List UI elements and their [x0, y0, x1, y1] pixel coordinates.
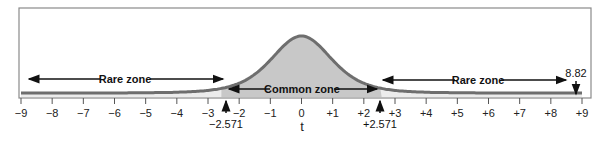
x-tick-label: +1: [326, 107, 339, 119]
x-tick-label: −1: [264, 107, 277, 119]
t-distribution-chart: −9−8−7−6−5−4−3−2−10+1+2+3+4+5+6+7+8+9 Ra…: [0, 0, 604, 141]
x-tick-label: −6: [108, 107, 121, 119]
x-tick-label: 0: [298, 107, 304, 119]
crit-neg-label: −2.571: [209, 118, 243, 130]
x-axis: −9−8−7−6−5−4−3−2−10+1+2+3+4+5+6+7+8+9: [15, 98, 589, 119]
x-axis-label: t: [300, 119, 304, 134]
x-tick-label: +7: [513, 107, 526, 119]
rare-zone-left-label: Rare zone: [99, 73, 152, 85]
x-tick-label: +9: [576, 107, 589, 119]
rare-zone-right-label: Rare zone: [452, 74, 505, 86]
common-zone-label: Common zone: [264, 83, 340, 95]
x-tick-label: +8: [545, 107, 558, 119]
x-tick-label: +5: [451, 107, 464, 119]
x-tick-label: −9: [15, 107, 28, 119]
x-tick-label: −7: [77, 107, 90, 119]
crit-pos-label: +2.571: [363, 118, 397, 130]
observed-value-label: 8.82: [565, 67, 586, 79]
x-tick-label: −5: [139, 107, 152, 119]
x-tick-label: −8: [46, 107, 59, 119]
x-tick-label: +6: [482, 107, 495, 119]
x-tick-label: −4: [171, 107, 184, 119]
x-tick-label: +4: [420, 107, 433, 119]
